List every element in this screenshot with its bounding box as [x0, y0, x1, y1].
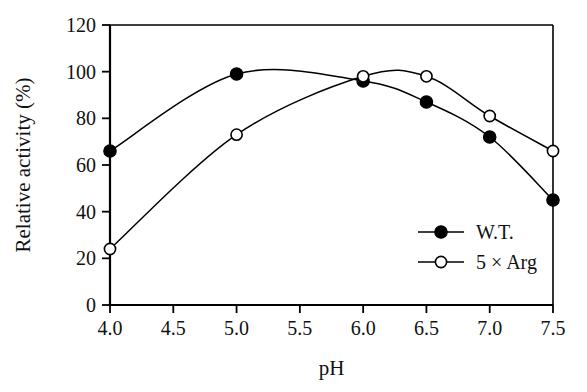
data-point-marker [104, 243, 115, 254]
data-point-marker [547, 194, 559, 206]
data-point-marker [420, 96, 432, 108]
y-tick-label: 0 [86, 294, 96, 316]
y-tick-label: 40 [76, 201, 96, 223]
data-point-marker [358, 71, 369, 82]
data-point-marker [547, 145, 558, 156]
legend-label: W.T. [476, 221, 514, 243]
figure-container: 020406080100120 4.04.55.05.56.06.57.07.5… [0, 0, 587, 392]
y-tick-label: 120 [66, 14, 96, 36]
x-tick-label: 7.0 [477, 317, 502, 339]
x-tick-label: 7.5 [541, 317, 566, 339]
data-point-marker [484, 110, 495, 121]
y-axis-tick-marks [102, 25, 110, 305]
legend-label: 5 × Arg [476, 251, 537, 274]
x-axis-tick-marks [110, 305, 553, 313]
legend-marker [435, 256, 446, 267]
chart-canvas: 020406080100120 4.04.55.05.56.06.57.07.5… [0, 0, 587, 392]
x-tick-label: 5.5 [287, 317, 312, 339]
data-point-marker [421, 71, 432, 82]
x-tick-label: 4.5 [161, 317, 186, 339]
x-tick-label: 6.0 [351, 317, 376, 339]
series-wt [104, 68, 559, 206]
y-tick-label: 20 [76, 247, 96, 269]
chart-legend: W.T.5 × Arg [418, 221, 537, 274]
y-tick-label: 60 [76, 154, 96, 176]
x-axis-tick-labels: 4.04.55.05.56.06.57.07.5 [98, 317, 566, 339]
data-point-marker [104, 145, 116, 157]
x-tick-label: 5.0 [224, 317, 249, 339]
x-axis-title: pH [319, 356, 345, 380]
x-tick-label: 6.5 [414, 317, 439, 339]
data-point-marker [484, 131, 496, 143]
y-axis-tick-labels: 020406080100120 [66, 14, 96, 316]
data-point-marker [230, 68, 242, 80]
y-tick-label: 100 [66, 61, 96, 83]
y-axis-title: Relative activity (%) [11, 78, 35, 253]
x-tick-label: 4.0 [98, 317, 123, 339]
data-point-marker [231, 129, 242, 140]
y-tick-label: 80 [76, 107, 96, 129]
legend-marker [435, 226, 447, 238]
